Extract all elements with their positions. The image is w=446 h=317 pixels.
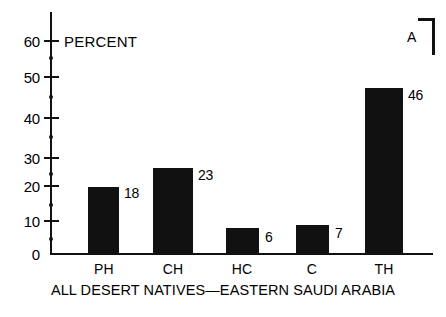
- y-tick-label-40: 40: [8, 111, 40, 126]
- y-tick-40: [44, 117, 59, 119]
- y-axis-title: PERCENT: [64, 34, 137, 49]
- bar-value-ch: 23: [198, 168, 213, 182]
- y-minor-tick-45: [49, 95, 53, 99]
- y-tick-60: [44, 40, 59, 42]
- bar-value-th: 46: [408, 88, 423, 102]
- y-minor-tick-5: [49, 237, 53, 241]
- x-axis-title: ALL DESERT NATIVES—EASTERN SAUDI ARABIA: [0, 282, 446, 298]
- bar-th: [365, 88, 403, 253]
- y-minor-tick-15: [49, 203, 53, 207]
- y-tick-30: [44, 157, 59, 159]
- bar-ch: [153, 168, 193, 253]
- y-tick-10: [44, 220, 59, 222]
- y-minor-tick-25: [49, 172, 53, 176]
- bar-value-hc: 6: [265, 230, 273, 244]
- y-tick-label-50: 50: [8, 70, 40, 85]
- y-tick-label-30: 30: [8, 151, 40, 166]
- y-minor-tick-55: [49, 56, 53, 60]
- bar-chart-figure: 60 50 40 30 20 10 0 PERCENT 18 PH 23 CH …: [0, 0, 446, 317]
- panel-letter-a: A: [407, 30, 416, 44]
- bar-ph: [88, 187, 119, 253]
- x-category-label-ph: PH: [83, 262, 125, 276]
- y-tick-50: [44, 76, 59, 78]
- y-axis-line: [50, 12, 52, 255]
- y-tick-20: [44, 185, 59, 187]
- y-tick-label-10: 10: [8, 214, 40, 229]
- bar-hc: [226, 228, 259, 253]
- bar-value-ph: 18: [124, 186, 139, 200]
- bar-value-c: 7: [335, 226, 343, 240]
- y-minor-tick-35: [49, 135, 53, 139]
- panel-corner-bracket-icon: [418, 18, 435, 55]
- x-category-label-hc: HC: [221, 262, 263, 276]
- x-category-label-c: C: [291, 262, 333, 276]
- y-tick-label-60: 60: [8, 34, 40, 49]
- y-tick-label-0: 0: [8, 247, 40, 262]
- x-category-label-th: TH: [363, 262, 405, 276]
- x-category-label-ch: CH: [152, 262, 194, 276]
- bar-c: [296, 225, 329, 253]
- x-axis-line: [50, 253, 433, 255]
- y-tick-label-20: 20: [8, 179, 40, 194]
